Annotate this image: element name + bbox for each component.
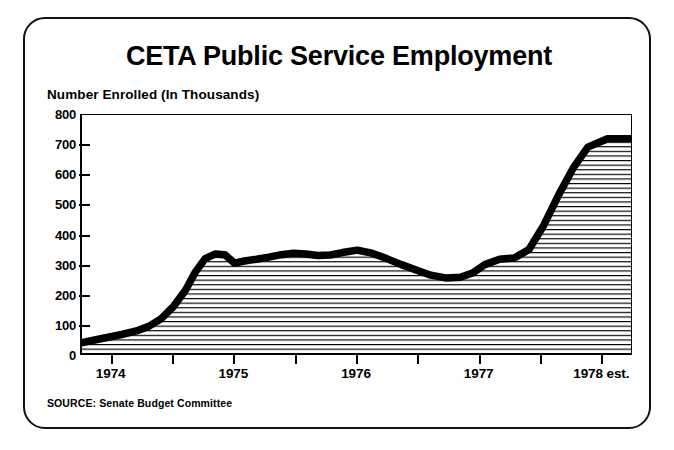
y-axis-label-400: 400 bbox=[36, 227, 76, 242]
x-tick bbox=[417, 353, 419, 364]
x-tick bbox=[356, 353, 358, 364]
y-axis-label-300: 300 bbox=[36, 257, 76, 272]
y-axis-label-500: 500 bbox=[36, 197, 76, 212]
y-axis-label-600: 600 bbox=[36, 167, 76, 182]
x-tick bbox=[233, 353, 235, 364]
chart-card: CETA Public Service Employment Number En… bbox=[23, 17, 651, 429]
x-tick bbox=[479, 353, 481, 364]
y-axis-label-200: 200 bbox=[36, 287, 76, 302]
y-tick-500 bbox=[79, 204, 90, 206]
chart-subtitle: Number Enrolled (In Thousands) bbox=[47, 87, 259, 102]
y-tick-100 bbox=[79, 325, 90, 327]
x-axis-label-1977: 1977 bbox=[464, 366, 494, 381]
x-axis-labels: 19741975197619771978 est. bbox=[80, 366, 632, 384]
x-axis-label-1976: 1976 bbox=[341, 366, 371, 381]
y-axis-label-100: 100 bbox=[36, 317, 76, 332]
chart-title: CETA Public Service Employment bbox=[25, 41, 653, 72]
x-tick bbox=[295, 353, 297, 364]
x-tick bbox=[540, 353, 542, 364]
y-axis-labels: 8007006005004003002001000 bbox=[32, 114, 76, 355]
x-axis-label-1978-est-: 1978 est. bbox=[573, 366, 629, 381]
source-note: SOURCE: Senate Budget Committee bbox=[47, 397, 232, 409]
y-tick-600 bbox=[79, 174, 90, 176]
y-axis-label-0: 0 bbox=[36, 348, 76, 363]
y-tick-200 bbox=[79, 295, 90, 297]
x-tick bbox=[111, 353, 113, 364]
area-series bbox=[80, 114, 632, 355]
x-tick bbox=[601, 353, 603, 364]
y-tick-300 bbox=[79, 265, 90, 267]
y-tick-700 bbox=[79, 144, 90, 146]
plot-area: 8007006005004003002001000 19741975197619… bbox=[80, 114, 632, 355]
x-axis-label-1975: 1975 bbox=[219, 366, 249, 381]
y-axis-label-700: 700 bbox=[36, 137, 76, 152]
x-tick bbox=[172, 353, 174, 364]
x-axis-label-1974: 1974 bbox=[96, 366, 126, 381]
y-axis-label-800: 800 bbox=[36, 107, 76, 122]
y-tick-400 bbox=[79, 235, 90, 237]
